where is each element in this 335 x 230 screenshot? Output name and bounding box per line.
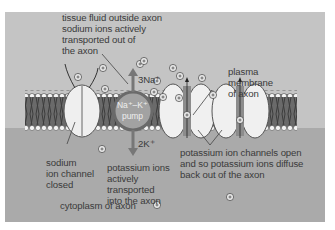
label-sodium-channel-3: closed [46, 179, 73, 190]
membrane-diagram [5, 12, 325, 222]
label-k-in-3: transported [107, 184, 154, 195]
label-sodium-channel-1: sodium [46, 157, 76, 168]
label-k-channels-3: back out of the axon [180, 169, 264, 180]
potassium-channel-1 [159, 77, 215, 138]
label-k-channels-2: and so potassium ions diffuse [180, 158, 303, 169]
label-k-channels-1: potassium ion channels open [180, 147, 302, 158]
label-plasma-2: membrane [228, 77, 273, 88]
label-k-count: 2K⁺ [138, 138, 154, 149]
label-k-in-2: actively [107, 173, 138, 184]
label-sodium-out-3: the axon [62, 45, 98, 56]
label-tissue-fluid: tissue fluid outside axon [62, 12, 162, 23]
label-plasma-1: plasma [228, 66, 258, 77]
diagram-panel: tissue fluid outside axon sodium ions ac… [5, 12, 325, 222]
label-k-in-1: potassium ions [107, 162, 170, 173]
label-pump-1: Na⁺–K⁺ [117, 100, 148, 111]
label-cytoplasm: cytoplasm of axon [60, 200, 136, 211]
label-na-count: 3Na⁺ [138, 74, 160, 85]
sodium-channel-closed [64, 64, 100, 137]
label-sodium-out-2: transported out of [62, 34, 135, 45]
label-pump-2: pump [122, 111, 143, 122]
label-sodium-channel-2: ion channel [46, 168, 94, 179]
label-plasma-3: of axon [228, 88, 259, 99]
label-sodium-out-1: sodium ions actively [62, 23, 146, 34]
